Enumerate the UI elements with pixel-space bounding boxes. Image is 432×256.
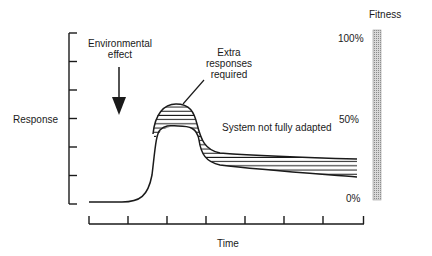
extra-responses-line2: responses [198, 58, 260, 69]
fitness-tick-100: 100% [338, 33, 364, 44]
x-axis-label: Time [217, 238, 239, 249]
extra-responses-label: Extra responses required [198, 47, 260, 80]
environmental-effect-line1: Environmental [84, 38, 156, 49]
fitness-title: Fitness [369, 9, 401, 20]
system-not-adapted-label: System not fully adapted [222, 122, 332, 133]
fitness-bar [373, 30, 381, 200]
down-arrow-icon [112, 67, 126, 115]
x-axis [89, 216, 364, 224]
y-axis [69, 33, 77, 204]
environmental-effect-label: Environmental effect [84, 38, 156, 60]
extra-responses-pointer [183, 80, 204, 104]
extra-responses-line3: required [198, 69, 260, 80]
fitness-tick-50: 50% [339, 114, 359, 125]
fitness-tick-0: 0% [346, 193, 360, 204]
y-axis-label: Response [13, 114, 58, 125]
extra-responses-line1: Extra [198, 47, 260, 58]
extra-response-area [154, 104, 357, 177]
diagram-canvas [0, 0, 432, 256]
environmental-effect-line2: effect [84, 49, 156, 60]
